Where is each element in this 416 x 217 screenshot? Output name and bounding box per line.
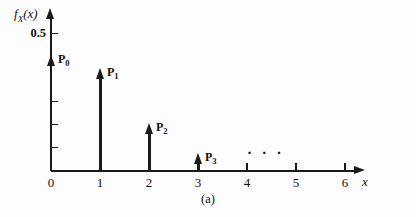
x-tick-label-6: 6 [333, 175, 357, 191]
impulse-p0-stem [50, 66, 52, 170]
figure-caption: (a) [0, 192, 416, 207]
x-tick-label-1: 1 [88, 175, 112, 191]
y-axis-arrowhead-icon [46, 8, 54, 19]
impulse-p3-label: P3 [205, 150, 217, 166]
x-tick-5 [295, 163, 296, 171]
impulse-p2-stem [148, 134, 150, 170]
x-tick-label-0: 0 [39, 175, 63, 191]
x-tick-label-2: 2 [137, 175, 161, 191]
impulse-p0-arrowhead-icon [47, 55, 55, 66]
impulse-p2-arrowhead-icon [145, 123, 153, 134]
impulse-p2-label: P2 [156, 120, 168, 136]
x-tick-label-5: 5 [284, 175, 308, 191]
y-tick-0-5 [51, 33, 58, 34]
x-tick-label-3: 3 [186, 175, 210, 191]
x-axis-line [51, 170, 356, 172]
ellipsis-dots: · · · [247, 146, 285, 161]
impulse-p1-arrowhead-icon [96, 68, 104, 79]
x-tick-label-4: 4 [235, 175, 259, 191]
impulse-p3-arrowhead-icon [194, 153, 202, 164]
impulse-p0-label: P0 [58, 52, 70, 68]
x-axis-title: x [362, 174, 368, 190]
y-tick-label-0-5: 0.5 [20, 26, 46, 41]
x-tick-6 [344, 163, 345, 171]
figure-panel-a: fX(x) 0.5 x 0 1 2 3 4 5 6 P0 P1 P2 P3 [0, 0, 416, 217]
impulse-p3-stem [197, 163, 199, 170]
x-tick-4 [246, 163, 247, 171]
impulse-p1-stem [99, 79, 101, 170]
y-axis-title: fX(x) [14, 6, 38, 24]
impulse-p1-label: P1 [107, 65, 119, 81]
